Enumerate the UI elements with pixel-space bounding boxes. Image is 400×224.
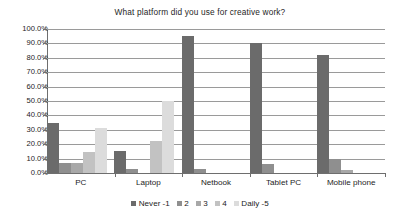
bar	[182, 36, 194, 173]
bar-group	[115, 29, 183, 173]
y-axis-tick-label: 50.0%	[0, 96, 48, 105]
legend-item: 4	[215, 199, 227, 208]
legend-label: 2	[184, 199, 189, 208]
bar	[47, 123, 59, 173]
legend-swatch-icon	[196, 201, 201, 206]
legend-swatch-icon	[177, 201, 182, 206]
bar-group	[317, 29, 385, 173]
bar	[150, 141, 162, 173]
y-axis-tick-label: 60.0%	[0, 82, 48, 91]
plot-area	[47, 29, 385, 173]
legend-item: Never -1	[131, 199, 170, 208]
y-axis-tick-label: 70.0%	[0, 67, 48, 76]
y-axis-tick-label: 20.0%	[0, 139, 48, 148]
x-axis-category-label: Netbook	[182, 178, 250, 187]
bar	[250, 43, 262, 173]
legend-label: 3	[203, 199, 208, 208]
x-axis-category-separator	[250, 173, 251, 177]
legend-item: Daily -5	[234, 199, 269, 208]
bar	[59, 163, 71, 173]
legend-swatch-icon	[131, 201, 136, 206]
bar	[126, 169, 138, 173]
bar-group	[182, 29, 250, 173]
legend-item: 2	[177, 199, 189, 208]
bar	[194, 169, 206, 173]
y-axis-tick-label: 0.0%	[0, 168, 48, 177]
bar-group	[250, 29, 318, 173]
bar	[262, 164, 274, 173]
legend-label: Never -1	[139, 199, 170, 208]
legend-label: Daily -5	[241, 199, 268, 208]
legend-label: 4	[222, 199, 227, 208]
chart-legend: Never -1234Daily -5	[0, 199, 400, 208]
gridline	[47, 173, 385, 174]
x-axis-category-separator	[385, 173, 386, 177]
x-axis-category-separator	[317, 173, 318, 177]
bar	[83, 152, 95, 173]
x-axis-category-separator	[182, 173, 183, 177]
y-axis-tick-label: 10.0%	[0, 154, 48, 163]
y-axis-tick-label: 100.0%	[0, 24, 48, 33]
bar	[114, 151, 126, 173]
bar-chart: What platform did you use for creative w…	[0, 0, 400, 224]
x-axis-category-separator	[115, 173, 116, 177]
x-axis-category-label: Mobile phone	[317, 178, 385, 187]
x-axis-category-label: Laptop	[115, 178, 183, 187]
x-axis-category-label: Tablet PC	[250, 178, 318, 187]
bar	[95, 128, 107, 173]
x-axis-category-label: PC	[47, 178, 115, 187]
chart-title: What platform did you use for creative w…	[0, 7, 400, 17]
y-axis-tick-label: 30.0%	[0, 125, 48, 134]
bar-group	[47, 29, 115, 173]
bar	[341, 170, 353, 173]
bar	[317, 55, 329, 173]
y-axis-tick-label: 90.0%	[0, 38, 48, 47]
legend-swatch-icon	[234, 201, 239, 206]
bar	[162, 101, 174, 173]
legend-swatch-icon	[215, 201, 220, 206]
legend-item: 3	[196, 199, 208, 208]
bar	[71, 163, 83, 173]
bar	[329, 159, 341, 173]
y-axis-tick-label: 40.0%	[0, 110, 48, 119]
y-axis-tick-label: 80.0%	[0, 53, 48, 62]
